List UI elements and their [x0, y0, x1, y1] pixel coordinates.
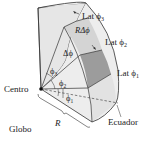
label-globe: Globo: [9, 124, 32, 134]
label-r-delta-phi: RΔϕ: [74, 25, 90, 35]
label-equator: Ecuador: [108, 117, 138, 127]
label-lat1: Lat ϕ1: [117, 68, 139, 79]
label-lat2: Lat ϕ2: [105, 37, 127, 48]
label-radius: R: [54, 118, 61, 128]
label-delta-phi: Δϕ: [63, 48, 73, 58]
center-point: [39, 87, 43, 91]
equator-pointer: [117, 105, 121, 117]
label-center: Centro: [4, 84, 29, 94]
globe-sector-diagram: Lat ϕ3 Lat ϕ2 Lat ϕ1 RΔϕ Δϕ ϕ3 ϕ2 ϕ1 Cen…: [0, 0, 150, 141]
label-lat3: Lat ϕ3: [82, 11, 104, 22]
